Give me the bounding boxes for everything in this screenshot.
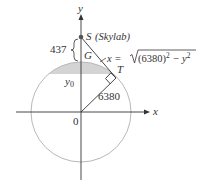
distance-formula: x =: [106, 53, 121, 64]
y-axis-label: y: [77, 2, 83, 14]
skylab-name: (Skylab): [95, 31, 130, 43]
y0-label: y0: [64, 75, 74, 89]
height-label: 437: [50, 43, 67, 55]
point-g-label: G: [84, 49, 92, 61]
skylab-point: [79, 35, 84, 40]
skylab-diagram: y x 0 S (Skylab) G T 437 y0 6380 x = (63…: [0, 0, 206, 196]
y-axis-arrow-icon: [79, 14, 84, 20]
origin-label: 0: [73, 115, 79, 127]
radius-label: 6380: [98, 90, 121, 102]
point-t-label: T: [117, 63, 124, 75]
formula-radicand: (6380)2 − y2: [138, 51, 191, 65]
x-axis-arrow-icon: [144, 110, 150, 115]
height-brace: [71, 39, 78, 61]
point-s-label: S: [86, 30, 92, 42]
x-axis-label: x: [152, 105, 158, 117]
